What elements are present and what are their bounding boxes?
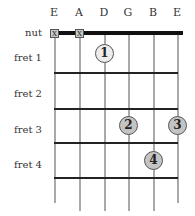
fret-line-4 [54,177,178,179]
string-label-high-e: E [170,6,184,19]
mute-marker-a: X [75,29,84,38]
fret-line-1 [54,72,178,74]
row-label-nut: nut [25,27,42,38]
string-label-low-e: E [47,6,61,19]
string-label-a: A [72,6,86,19]
nut-line [50,31,183,35]
row-label-fret-4: fret 4 [14,159,42,170]
string-label-b: B [146,6,160,19]
row-label-fret-2: fret 2 [14,88,42,99]
string-b [153,33,155,211]
finger-dot-4: 4 [144,151,163,170]
fret-line-3 [54,142,178,144]
finger-dot-3: 3 [168,116,187,135]
string-a [79,33,81,211]
row-label-fret-1: fret 1 [14,52,42,63]
mute-marker-low-e: X [50,29,59,38]
string-label-g: G [121,6,135,19]
row-label-fret-3: fret 3 [14,124,42,135]
fret-line-2 [54,108,178,110]
finger-dot-1: 1 [95,44,114,63]
string-label-d: D [97,6,111,19]
finger-dot-2: 2 [119,116,138,135]
